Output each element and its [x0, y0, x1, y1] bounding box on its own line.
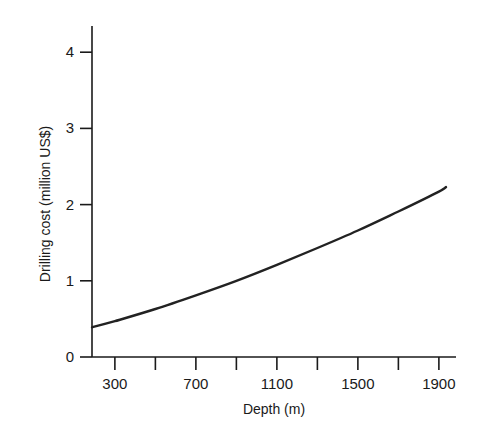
x-tick-label: 1500 — [341, 375, 374, 392]
y-tick-label: 2 — [66, 196, 74, 213]
y-tick-label: 4 — [66, 43, 74, 60]
x-tick-label: 700 — [183, 375, 208, 392]
x-tick-label: 1900 — [422, 375, 455, 392]
y-tick-label: 3 — [66, 119, 74, 136]
x-tick-label: 300 — [102, 375, 127, 392]
drilling-cost-curve — [92, 187, 446, 327]
y-tick-label: 0 — [66, 348, 74, 365]
y-axis-label: Drilling cost (million US$) — [37, 126, 53, 282]
x-tick-label: 1100 — [261, 375, 293, 392]
y-axis: 01234 — [66, 26, 92, 365]
x-axis-label: Depth (m) — [243, 401, 305, 417]
drilling-cost-chart: 01234 300700110015001900 Depth (m) Drill… — [0, 0, 484, 443]
x-axis: 300700110015001900 — [92, 357, 456, 392]
y-tick-label: 1 — [66, 272, 74, 289]
